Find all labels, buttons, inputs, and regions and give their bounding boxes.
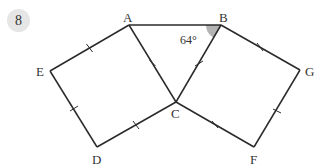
label-a: A (123, 10, 133, 25)
label-c: C (171, 106, 180, 121)
label-g: G (305, 64, 314, 79)
segment-dc (97, 102, 176, 147)
label-e: E (36, 64, 44, 79)
label-d: D (92, 152, 101, 167)
segment-gf (254, 70, 300, 147)
angle-marker-b (206, 25, 221, 38)
angle-label: 64° (180, 33, 197, 47)
label-b: B (219, 10, 228, 25)
geometry-diagram: A B C D E F G 64° (0, 0, 329, 168)
label-f: F (250, 152, 257, 167)
